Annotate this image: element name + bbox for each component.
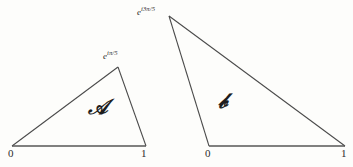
triangle-a-unit-label: 1 bbox=[141, 148, 147, 159]
triangle-b-apex-label: ei3π/5 bbox=[137, 6, 155, 17]
triangle-b-unit-label: 1 bbox=[341, 148, 347, 159]
triangle-a-right-edge bbox=[118, 67, 146, 146]
triangle-a-apex-label: eiπ/5 bbox=[103, 50, 118, 61]
figure-canvas: 0 1 eiπ/5 0 1 ei3π/5 𝒜 𝒷 bbox=[0, 0, 353, 167]
triangle-b bbox=[169, 16, 345, 146]
triangle-b-apex-exponent: i3π/5 bbox=[141, 5, 155, 12]
triangle-b-right-edge bbox=[169, 16, 345, 146]
region-label-b: 𝒷 bbox=[218, 90, 227, 111]
triangle-a bbox=[12, 67, 146, 146]
triangle-a-apex-exponent: iπ/5 bbox=[107, 49, 118, 56]
triangle-a-origin-label: 0 bbox=[8, 148, 14, 159]
triangle-b-left-edge bbox=[169, 16, 209, 146]
region-label-a: 𝒜 bbox=[88, 96, 108, 117]
triangle-b-origin-label: 0 bbox=[205, 148, 211, 159]
triangles-diagram bbox=[0, 0, 353, 167]
